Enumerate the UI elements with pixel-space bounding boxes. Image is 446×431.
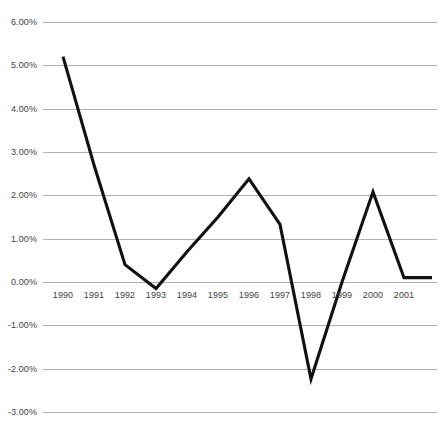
gridlines [43,23,437,413]
x-tick-label: 1994 [172,290,202,300]
x-tick-label: 1996 [234,290,264,300]
y-tick-label: 1.00% [0,234,37,244]
y-tick-label: 5.00% [0,60,37,70]
y-tick-label: -2.00% [0,364,37,374]
y-tick-label: 0.00% [0,277,37,287]
x-tick-label: 1995 [203,290,233,300]
x-tick-label: 1999 [327,290,357,300]
y-tick-label: -1.00% [0,320,37,330]
y-tick-label: 4.00% [0,104,37,114]
x-tick-label: 2000 [358,290,388,300]
y-tick-label: 2.00% [0,190,37,200]
y-tick-label: 3.00% [0,147,37,157]
series-line-path [63,57,432,379]
x-tick-label: 1991 [79,290,109,300]
x-tick-label: 1992 [110,290,140,300]
line-chart: 6.00%5.00%4.00%3.00%2.00%1.00%0.00%-1.00… [0,0,446,431]
y-tick-label: 6.00% [0,17,37,27]
data-series-group [63,57,432,379]
y-tick-label: -3.00% [0,407,37,417]
x-tick-label: 1993 [141,290,171,300]
x-tick-label: 2001 [389,290,419,300]
chart-plot-area [0,0,446,431]
x-tick-label: 1998 [296,290,326,300]
x-tick-label: 1990 [48,290,78,300]
x-tick-label: 1997 [265,290,295,300]
